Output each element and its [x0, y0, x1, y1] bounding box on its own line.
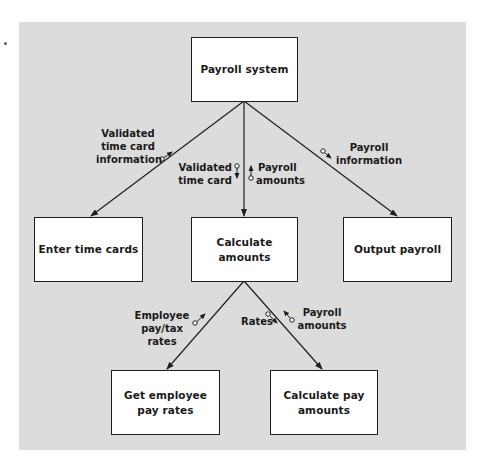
label-line: Employee	[128, 309, 196, 322]
module-calculate-amounts: Calculate amounts	[191, 217, 298, 282]
module-label: Enter time cards	[39, 242, 139, 256]
label-line: Payroll	[296, 306, 348, 319]
label-line: time card	[96, 140, 160, 153]
label-line: pay/tax rates	[128, 322, 196, 348]
module-get-employee-pay-rates: Get employee pay rates	[111, 370, 220, 435]
module-payroll-system: Payroll system	[191, 37, 298, 102]
module-label: Calculate amounts	[192, 235, 297, 263]
couple-payroll-information: Payroll information	[334, 141, 404, 167]
module-enter-time-cards: Enter time cards	[34, 217, 143, 282]
label-line: Rates	[241, 316, 273, 327]
module-label-line1: Calculate pay	[284, 388, 365, 402]
couple-rates: Rates	[241, 315, 273, 328]
module-output-payroll: Output payroll	[343, 217, 452, 282]
module-label-line2: amounts	[284, 403, 365, 417]
module-label-line2: pay rates	[124, 403, 207, 417]
label-line: Validated	[96, 127, 160, 140]
module-label: Payroll system	[200, 62, 288, 76]
couple-payroll-amounts: Payroll amounts	[256, 161, 316, 187]
couple-validated-time-card: Validated time card	[176, 161, 232, 187]
couple-payroll-amounts-return: Payroll amounts	[296, 306, 348, 332]
label-line: amounts	[256, 174, 316, 187]
label-line: Payroll	[334, 141, 404, 154]
label-line: amounts	[296, 319, 348, 332]
couple-employee-pay-tax-rates: Employee pay/tax rates	[128, 309, 196, 348]
label-line: Validated	[176, 161, 232, 174]
module-label-line1: Get employee	[124, 388, 207, 402]
label-line: time card	[176, 174, 232, 187]
module-label: Output payroll	[354, 242, 441, 256]
label-line: Payroll	[256, 161, 316, 174]
module-calculate-pay-amounts: Calculate pay amounts	[270, 370, 378, 435]
label-line: information	[96, 153, 160, 166]
label-line: information	[334, 154, 404, 167]
couple-validated-time-card-information: Validated time card information	[96, 127, 160, 166]
